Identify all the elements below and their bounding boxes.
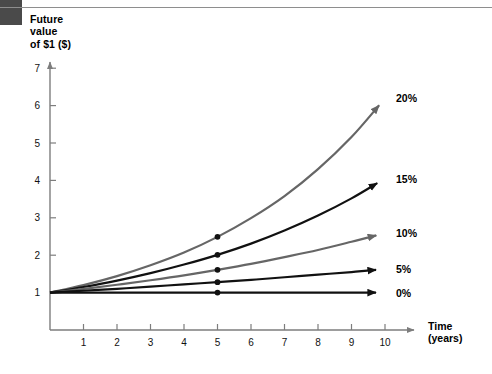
x-tick-label: 8 <box>315 337 321 348</box>
x-tick-label: 7 <box>282 337 288 348</box>
series-label-5pct: 5% <box>396 263 412 275</box>
chart-plot-area: 1234567 12345678910 20%15%10%5%0% <box>0 0 492 374</box>
y-tick-label: 1 <box>34 287 40 298</box>
x-tick-label: 6 <box>248 337 254 348</box>
x-axis-title: Time (years) <box>428 320 462 345</box>
series-line-20pct <box>50 105 379 292</box>
data-point-markers <box>215 234 221 296</box>
x-tick-label: 2 <box>114 337 120 348</box>
x-tick-label: 3 <box>148 337 154 348</box>
data-point-marker <box>215 234 221 240</box>
data-point-marker <box>215 252 221 258</box>
series-label-20pct: 20% <box>396 92 418 104</box>
series-label-0pct: 0% <box>396 287 412 299</box>
x-tick-label: 5 <box>215 337 221 348</box>
y-tick-label: 4 <box>34 175 40 186</box>
data-point-marker <box>215 279 221 285</box>
series-label-10pct: 10% <box>396 227 418 239</box>
y-tick-label: 2 <box>34 250 40 261</box>
data-point-marker <box>215 290 221 296</box>
y-tick-label: 3 <box>34 212 40 223</box>
x-tick-label: 4 <box>181 337 187 348</box>
x-tick-label: 1 <box>81 337 87 348</box>
y-tick-label: 5 <box>34 138 40 149</box>
series-label-group: 20%15%10%5%0% <box>396 92 418 298</box>
y-axis-ticks: 1234567 <box>34 63 56 298</box>
y-tick-label: 7 <box>34 63 40 74</box>
data-point-marker <box>215 267 221 273</box>
series-label-15pct: 15% <box>396 173 418 185</box>
x-axis-ticks: 12345678910 <box>81 324 391 348</box>
x-tick-label: 10 <box>379 337 391 348</box>
data-series-group <box>50 105 379 292</box>
chart-page: Future value of $1 ($) 1234567 123456789… <box>0 0 492 374</box>
y-tick-label: 6 <box>34 100 40 111</box>
x-tick-label: 9 <box>349 337 355 348</box>
